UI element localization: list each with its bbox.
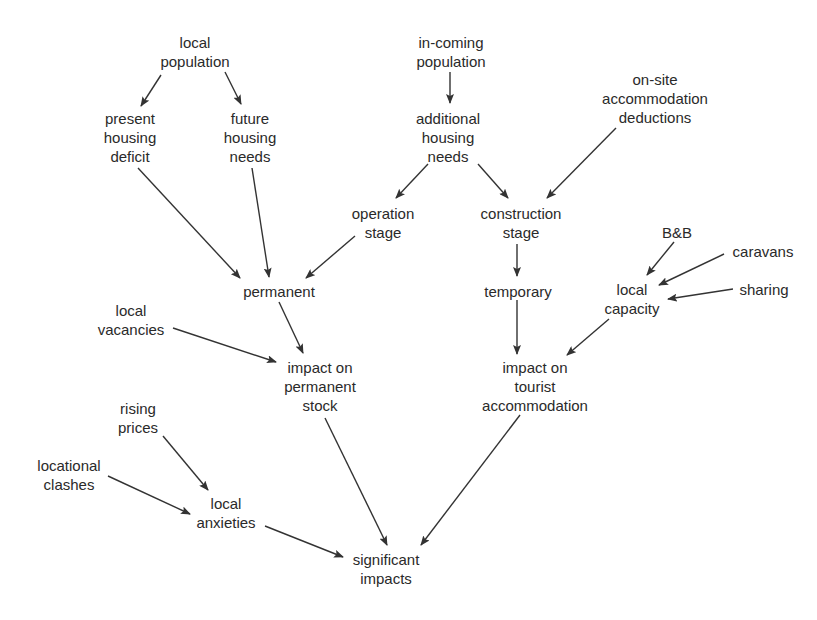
node-label-line: sharing <box>739 280 788 299</box>
node-permanent: permanent <box>243 282 315 301</box>
arrow-impact-on-permanent-stock-to-significant-impacts <box>325 418 387 545</box>
diagram-canvas: localpopulationpresenthousingdeficitfutu… <box>0 0 817 620</box>
node-label-line: population <box>416 52 485 71</box>
node-label-line: tourist <box>482 377 588 396</box>
node-label-line: needs <box>416 147 480 166</box>
arrow-operation-stage-to-permanent <box>306 236 355 278</box>
node-label-line: additional <box>416 109 480 128</box>
node-label-line: capacity <box>604 299 659 318</box>
node-future-housing-needs: futurehousingneeds <box>224 109 277 166</box>
node-local-capacity: localcapacity <box>604 280 659 318</box>
node-label-line: local <box>196 494 255 513</box>
node-label-line: construction <box>481 204 562 223</box>
arrow-local-vacancies-to-impact-on-permanent-stock <box>173 328 276 362</box>
node-label-line: permanent <box>243 282 315 301</box>
node-construction-stage: constructionstage <box>481 204 562 242</box>
node-local-vacancies: localvacancies <box>98 301 165 339</box>
arrow-caravans-to-local-capacity <box>659 254 724 285</box>
node-label-line: on-site <box>602 70 708 89</box>
arrow-local-population-to-present-housing-deficit <box>141 75 161 106</box>
node-label-line: present <box>104 109 157 128</box>
node-rising-prices: risingprices <box>118 399 158 437</box>
node-in-coming-population: in-comingpopulation <box>416 33 485 71</box>
node-label-line: deficit <box>104 147 157 166</box>
node-local-population: localpopulation <box>160 33 229 71</box>
node-label-line: stage <box>481 223 562 242</box>
node-local-anxieties: localanxieties <box>196 494 255 532</box>
node-present-housing-deficit: presenthousingdeficit <box>104 109 157 166</box>
node-label-line: impact on <box>482 358 588 377</box>
node-label-line: anxieties <box>196 513 255 532</box>
node-label-line: housing <box>224 128 277 147</box>
node-significant-impacts: significantimpacts <box>353 550 420 588</box>
arrow-local-anxieties-to-significant-impacts <box>265 526 343 557</box>
node-label-line: temporary <box>484 282 552 301</box>
arrow-locational-clashes-to-local-anxieties <box>108 476 190 514</box>
node-label-line: accommodation <box>602 89 708 108</box>
node-label-line: needs <box>224 147 277 166</box>
node-label-line: vacancies <box>98 320 165 339</box>
node-label-line: B&B <box>662 223 692 242</box>
node-label-line: permanent <box>284 377 356 396</box>
arrow-local-capacity-to-impact-on-tourist-accommodation <box>567 319 609 355</box>
node-label-line: significant <box>353 550 420 569</box>
arrow-permanent-to-impact-on-permanent-stock <box>279 302 303 353</box>
node-label-line: population <box>160 52 229 71</box>
node-label-line: stage <box>352 223 415 242</box>
arrow-rising-prices-to-local-anxieties <box>163 436 208 490</box>
node-label-line: prices <box>118 418 158 437</box>
node-label-line: impact on <box>284 358 356 377</box>
node-label-line: local <box>160 33 229 52</box>
node-locational-clashes: locationalclashes <box>37 456 100 494</box>
node-operation-stage: operationstage <box>352 204 415 242</box>
arrow-sharing-to-local-capacity <box>668 289 733 299</box>
node-label-line: clashes <box>37 475 100 494</box>
arrow-bnb-to-local-capacity <box>647 242 674 275</box>
node-label-line: local <box>604 280 659 299</box>
arrow-local-population-to-future-housing-needs <box>225 72 241 104</box>
node-label-line: operation <box>352 204 415 223</box>
arrow-additional-housing-needs-to-operation-stage <box>396 164 428 198</box>
node-label-line: housing <box>104 128 157 147</box>
node-label-line: stock <box>284 396 356 415</box>
node-caravans: caravans <box>733 242 794 261</box>
node-label-line: local <box>98 301 165 320</box>
node-label-line: future <box>224 109 277 128</box>
node-on-site-accommodation-deductions: on-siteaccommodationdeductions <box>602 70 708 127</box>
node-bnb: B&B <box>662 223 692 242</box>
arrow-present-housing-deficit-to-permanent <box>138 168 240 278</box>
node-label-line: impacts <box>353 569 420 588</box>
arrow-additional-housing-needs-to-construction-stage <box>478 164 508 198</box>
node-impact-on-permanent-stock: impact onpermanentstock <box>284 358 356 415</box>
node-label-line: accommodation <box>482 396 588 415</box>
node-sharing: sharing <box>739 280 788 299</box>
arrow-impact-on-tourist-accommodation-to-significant-impacts <box>421 415 520 545</box>
node-label-line: caravans <box>733 242 794 261</box>
arrow-future-housing-needs-to-permanent <box>252 168 269 277</box>
arrow-on-site-accommodation-deductions-to-construction-stage <box>547 128 616 198</box>
node-label-line: housing <box>416 128 480 147</box>
node-label-line: rising <box>118 399 158 418</box>
node-impact-on-tourist-accommodation: impact ontouristaccommodation <box>482 358 588 415</box>
node-additional-housing-needs: additionalhousingneeds <box>416 109 480 166</box>
node-label-line: in-coming <box>416 33 485 52</box>
node-temporary: temporary <box>484 282 552 301</box>
node-label-line: locational <box>37 456 100 475</box>
node-label-line: deductions <box>602 108 708 127</box>
